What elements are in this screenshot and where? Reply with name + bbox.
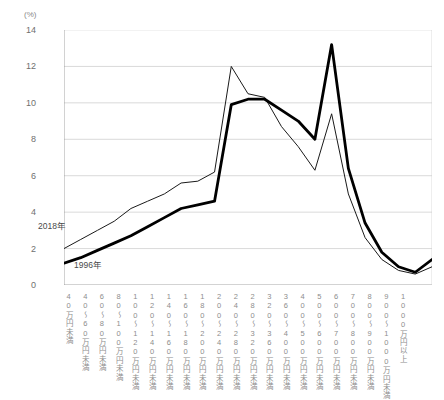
x-axis-label: 160〜180万円未満 [175,292,189,390]
x-axis-label: 140〜160万円未満 [158,292,172,390]
x-axis-label: 700〜800万円未満 [342,292,356,390]
x-axis-label: 500〜600万円未満 [309,292,323,390]
y-axis-tick-labels: 02468101214 [14,0,36,400]
x-axis-label: 100〜120万円未満 [125,292,139,390]
x-axis-label: 200〜240万円未満 [209,292,223,390]
y-axis-tick-8: 8 [16,134,36,144]
x-axis-label: 600〜700万円未満 [326,292,340,390]
x-axis-label: 320〜360万円未満 [259,292,273,390]
x-axis-label: 1000万円以上 [393,292,407,363]
y-axis-tick-14: 14 [16,25,36,35]
x-axis-label: 240〜280万円未満 [225,292,239,390]
income-distribution-line-chart: (%) 02468101214 40万円未満40〜60万円未満60〜80万円未満… [0,0,444,400]
x-axis-label: 40〜60万円未満 [75,292,89,372]
x-axis-label: 80〜100万円未満 [108,292,122,381]
plot-svg [64,30,432,285]
series-label-1996: 1996年 [74,258,102,270]
x-axis-label: 400〜500万円未満 [292,292,306,390]
x-axis-label: 60〜80万円未満 [91,292,105,372]
x-axis-label: 40万円未満 [58,292,72,344]
x-axis-label: 280〜320万円未満 [242,292,256,390]
plot-area [64,30,432,285]
data-series-lines [64,45,432,274]
y-axis-tick-10: 10 [16,98,36,108]
x-axis-label: 900〜1000万円未満 [376,292,390,400]
y-axis-tick-6: 6 [16,171,36,181]
x-axis-label: 800〜900万円未満 [359,292,373,390]
y-axis-tick-0: 0 [16,280,36,290]
x-axis-category-labels: 40万円未満40〜60万円未満60〜80万円未満80〜100万円未満100〜12… [64,287,432,400]
y-axis-tick-12: 12 [16,61,36,71]
series-line-1996年 [64,45,432,273]
x-axis-label: 180〜200万円未満 [192,292,206,390]
y-axis-tick-4: 4 [16,207,36,217]
y-axis-tick-2: 2 [16,244,36,254]
x-axis-label: 120〜140万円未満 [142,292,156,390]
axis-lines [64,30,432,285]
gridlines [64,30,432,249]
x-axis-label: 360〜400万円未満 [275,292,289,390]
series-label-2018: 2018年 [38,219,66,231]
